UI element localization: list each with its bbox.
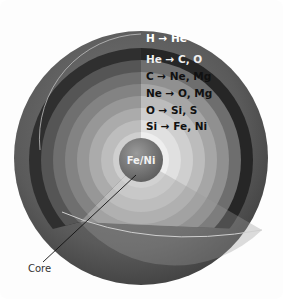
shell-label-he: He → C, O [146, 53, 202, 65]
core-label: Fe/Ni [127, 155, 156, 166]
shell-label-si: Si → Fe, Ni [146, 120, 207, 132]
star-cutaway-diagram: Fe/Ni H → He He → C, O C → Ne, Mg Ne → O… [0, 0, 283, 299]
core-callout-label: Core [28, 263, 51, 274]
shell-label-o: O → Si, S [146, 104, 197, 116]
shell-label-ne: Ne → O, Mg [146, 87, 212, 99]
shell-label-h: H → He [146, 32, 187, 44]
shell-label-c: C → Ne, Mg [146, 70, 211, 82]
